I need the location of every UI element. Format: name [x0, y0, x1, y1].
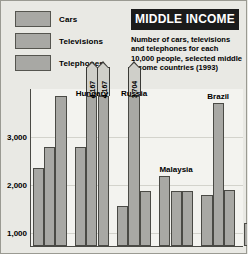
legend-label-televisions: Televisions [59, 37, 103, 46]
bar-malaysia-televisions [171, 191, 182, 246]
legend-label-cars: Cars [59, 15, 77, 24]
chart-caption: Number of cars, televisions and telephon… [131, 35, 243, 73]
bar-brazil-televisions [213, 103, 224, 246]
legend-item-cars: Cars [15, 9, 104, 29]
bar-malaysia-cars [159, 176, 170, 246]
country-label-russia: Russia [121, 89, 147, 98]
bar-malaysia-telephones [182, 191, 193, 246]
country-label-malaysia: Malaysia [159, 165, 192, 174]
bar-poland-televisions [44, 147, 55, 246]
bar-hungary-televisions [86, 96, 97, 246]
bar-hungary-cars [75, 147, 86, 246]
y-tick-1000: 1,000 [7, 229, 27, 238]
chart-header: Cars Televisions Telephones MIDDLE INCOM… [1, 1, 247, 87]
bar-russia-televisions [128, 96, 139, 246]
title-block: MIDDLE INCOME Number of cars, television… [131, 9, 239, 73]
country-label-hungary: Hungary [76, 89, 108, 98]
legend-item-televisions: Televisions [15, 31, 104, 51]
bar-poland-telephones [55, 96, 66, 246]
bar-poland-cars [33, 168, 44, 247]
callout-arrow-icon [97, 61, 109, 68]
country-label-brazil: Brazil [207, 92, 229, 101]
legend-swatch-telephones [15, 55, 51, 71]
y-tick-2000: 2,000 [7, 181, 27, 190]
y-axis: 3,000 2,000 1,000 [1, 89, 30, 247]
bar-brazil-telephones [224, 190, 235, 246]
callout-arrow-icon [128, 61, 140, 68]
legend-swatch-televisions [15, 33, 51, 49]
legend-swatch-cars [15, 11, 51, 27]
bar-russia-cars [117, 206, 128, 246]
chart-frame: Cars Televisions Telephones MIDDLE INCOM… [0, 0, 247, 254]
plot-area: 4,1674,167Hungary3,704RussiaMalaysiaBraz… [30, 89, 243, 247]
callout-arrow-icon [86, 61, 98, 68]
bar-brazil-cars [201, 195, 212, 246]
chart-title: MIDDLE INCOME [131, 9, 239, 30]
bar-russia-telephones [140, 191, 151, 246]
y-tick-3000: 3,000 [7, 133, 27, 142]
bar-jordan-cars [244, 223, 248, 246]
bar-hungary-telephones [98, 96, 109, 246]
